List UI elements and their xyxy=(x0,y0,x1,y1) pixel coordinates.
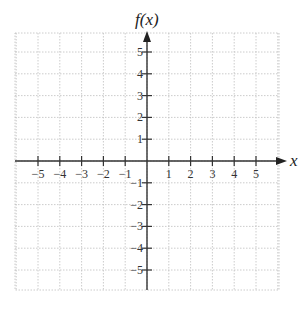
coordinate-plane: −5−4−3−2−11234554321−1−2−3−4−5 x f(x) xyxy=(0,0,303,313)
x-tick-label: −4 xyxy=(53,167,66,181)
x-tick-label: 2 xyxy=(188,167,194,181)
y-tick-label: 2 xyxy=(137,110,143,124)
y-axis-title: f(x) xyxy=(135,10,159,29)
x-tick-label: 1 xyxy=(166,167,172,181)
y-tick-label: 5 xyxy=(137,45,143,59)
x-tick-label: 5 xyxy=(253,167,259,181)
x-tick-label: 3 xyxy=(209,167,215,181)
y-tick-label: −3 xyxy=(130,219,143,233)
y-tick-label: 3 xyxy=(137,89,143,103)
y-tick-label: 1 xyxy=(137,132,143,146)
x-tick-label: −5 xyxy=(32,167,45,181)
axes xyxy=(15,31,287,290)
x-axis-title: x xyxy=(289,151,298,170)
y-tick-label: −5 xyxy=(130,263,143,277)
x-tick-label: −3 xyxy=(75,167,88,181)
y-tick-label: 4 xyxy=(137,67,143,81)
y-tick-label: −2 xyxy=(130,198,143,212)
x-axis-arrow-icon xyxy=(276,157,287,165)
x-tick-label: 4 xyxy=(231,167,237,181)
y-tick-label: −1 xyxy=(130,176,143,190)
x-tick-label: −2 xyxy=(97,167,110,181)
y-tick-label: −4 xyxy=(130,241,143,255)
